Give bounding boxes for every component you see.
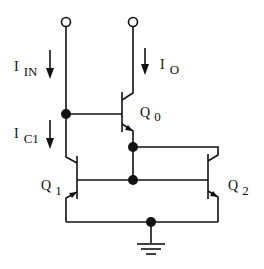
input-node-dot [61, 109, 71, 119]
label-q0: Q0 [140, 105, 161, 124]
label-q1: Q1 [41, 178, 62, 198]
input-wire [66, 27, 77, 164]
input-terminal [62, 18, 71, 27]
arrow-down-icon [46, 120, 54, 149]
label-i-in: IIN [14, 59, 38, 79]
ground-icon [137, 222, 165, 254]
arrow-down-icon [46, 50, 54, 79]
label-i-o: IO [160, 57, 179, 77]
q2-collector-wire [133, 147, 218, 161]
circuit-diagram: IIN IO IC1 Q0 Q1 Q2 [0, 0, 264, 269]
label-q2: Q2 [228, 178, 249, 198]
label-i-c1: IC1 [14, 126, 39, 146]
transistor-q2 [208, 154, 218, 222]
output-terminal [129, 18, 138, 27]
transistor-q1 [66, 156, 77, 222]
base-node-dot [128, 175, 138, 185]
transistor-q0 [122, 27, 133, 181]
arrow-down-icon [141, 48, 149, 75]
